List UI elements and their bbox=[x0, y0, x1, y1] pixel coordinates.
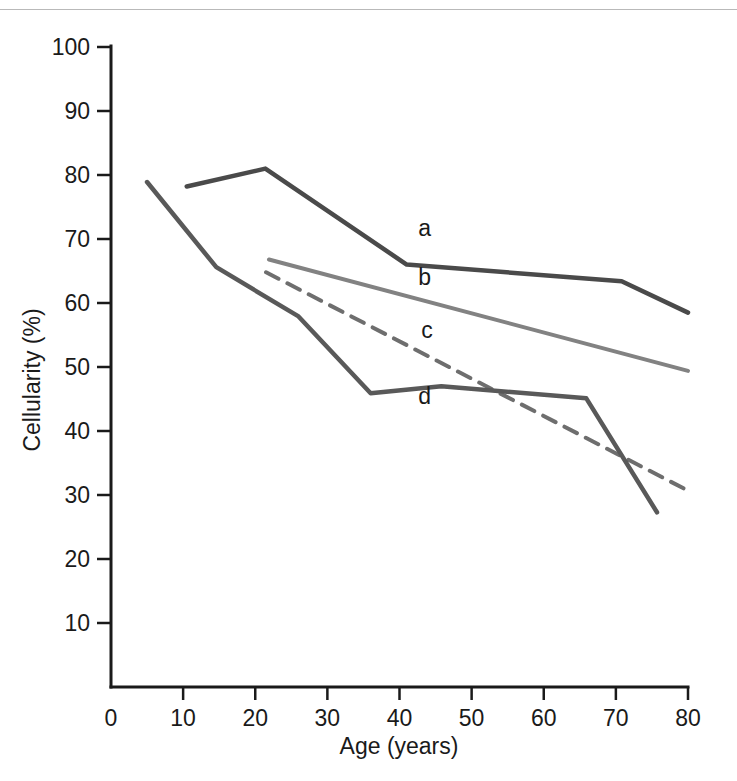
axes-group bbox=[111, 46, 688, 687]
series-line-a bbox=[187, 169, 688, 313]
x-tick-label: 20 bbox=[242, 705, 268, 731]
y-tick-label: 70 bbox=[64, 226, 90, 252]
series-label-a: a bbox=[418, 215, 431, 241]
y-axis-tick-labels: 102030405060708090100 bbox=[52, 34, 90, 636]
x-axis-ticks bbox=[183, 687, 688, 700]
y-tick-label: 40 bbox=[64, 418, 90, 444]
x-tick-label: 0 bbox=[105, 705, 118, 731]
x-tick-label: 80 bbox=[675, 705, 701, 731]
y-tick-label: 90 bbox=[64, 98, 90, 124]
y-axis-ticks bbox=[97, 47, 111, 623]
y-tick-label: 80 bbox=[64, 162, 90, 188]
series-label-b: b bbox=[418, 264, 431, 290]
x-tick-label: 30 bbox=[315, 705, 341, 731]
x-tick-label: 50 bbox=[459, 705, 485, 731]
y-tick-label: 20 bbox=[64, 546, 90, 572]
x-axis-title: Age (years) bbox=[340, 733, 459, 759]
y-tick-label: 30 bbox=[64, 482, 90, 508]
x-tick-label: 70 bbox=[603, 705, 629, 731]
y-tick-label: 50 bbox=[64, 354, 90, 380]
chart-canvas: 102030405060708090100 01020304050607080 … bbox=[0, 0, 737, 781]
y-tick-label: 100 bbox=[52, 34, 90, 60]
x-tick-label: 40 bbox=[387, 705, 413, 731]
x-axis-tick-labels: 01020304050607080 bbox=[105, 705, 701, 731]
y-tick-label: 10 bbox=[64, 610, 90, 636]
series-label-c: c bbox=[421, 317, 433, 343]
y-axis-title: Cellularity (%) bbox=[19, 308, 45, 451]
x-tick-label: 60 bbox=[531, 705, 557, 731]
y-tick-label: 60 bbox=[64, 290, 90, 316]
series-label-d: d bbox=[418, 383, 431, 409]
cellularity-vs-age-chart: 102030405060708090100 01020304050607080 … bbox=[0, 0, 737, 781]
x-tick-label: 10 bbox=[170, 705, 196, 731]
series-line-d bbox=[147, 182, 657, 512]
series-inline-labels: abcd bbox=[418, 215, 432, 409]
